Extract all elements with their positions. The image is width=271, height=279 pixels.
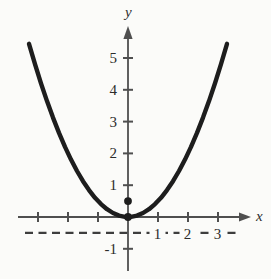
y-tick-label-4: 4 [110,82,118,98]
x-tick-label-3: 3 [214,226,222,242]
x-tick-label-1: 1 [154,226,162,242]
x-axis-label: x [256,209,263,224]
parabola-figure: 54321-1123 y x [0,0,271,279]
y-tick-label-5: 5 [110,50,118,66]
y-axis-label: y [125,5,132,20]
marked-point-dot-0 [124,197,132,205]
x-tick-label-2: 2 [184,226,192,242]
y-tick-label--1: -1 [105,241,118,257]
marked-point-dot-1 [124,213,132,221]
parabola-chart-svg: 54321-1123 [0,0,271,279]
x-axis-arrowhead-icon [239,212,251,221]
y-axis-arrowhead-icon [123,26,132,39]
y-tick-label-1: 1 [110,177,118,193]
y-tick-label-2: 2 [110,145,118,161]
y-tick-label-3: 3 [110,114,118,130]
